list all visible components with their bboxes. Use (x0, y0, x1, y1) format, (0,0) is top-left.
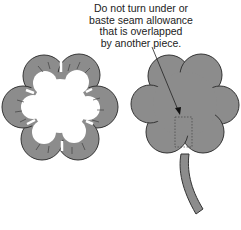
flower-applique-icon (131, 54, 239, 214)
diagram-canvas (0, 0, 241, 230)
stem-icon (180, 154, 203, 214)
